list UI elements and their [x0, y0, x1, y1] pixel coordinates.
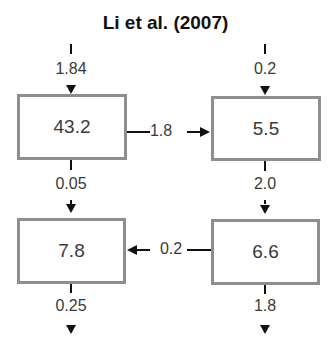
box-bottom-left: 7.8 — [17, 218, 126, 284]
box-top-left: 43.2 — [17, 94, 127, 160]
output-left-arrow-icon — [66, 325, 76, 334]
flow-tr-br-line — [264, 200, 266, 204]
flow-tr-br-tick — [264, 161, 266, 171]
input-left-arrow-icon — [66, 85, 76, 94]
flow-tl-bl-label: 0.05 — [41, 175, 101, 193]
output-right-label: 1.8 — [235, 297, 295, 315]
input-right-tick — [264, 44, 266, 54]
flow-tl-tr-line2 — [187, 131, 201, 133]
flow-br-bl-line — [136, 249, 150, 251]
flow-tr-br-arrow-icon — [260, 205, 270, 214]
output-left-tick — [70, 284, 72, 293]
flow-tl-bl-arrow-icon — [66, 204, 76, 213]
output-right-arrow-icon — [260, 325, 270, 334]
box-top-right: 5.5 — [211, 96, 321, 161]
flow-tl-bl-tick — [70, 160, 72, 170]
output-left-label: 0.25 — [41, 297, 101, 315]
box-bottom-right: 6.6 — [211, 219, 320, 285]
input-left-label: 1.84 — [41, 60, 101, 78]
flow-br-bl-label: 0.2 — [150, 240, 192, 258]
input-left-tick — [70, 44, 72, 54]
output-right-tick — [264, 285, 266, 294]
flow-tl-tr-arrow-icon — [200, 127, 210, 137]
input-right-label: 0.2 — [235, 60, 295, 78]
flow-tl-tr-label: 1.8 — [140, 122, 182, 140]
flow-tr-br-label: 2.0 — [235, 175, 295, 193]
diagram-title: Li et al. (2007) — [0, 12, 331, 34]
input-right-arrow-icon — [260, 86, 270, 95]
flow-br-bl-line2 — [187, 249, 211, 251]
